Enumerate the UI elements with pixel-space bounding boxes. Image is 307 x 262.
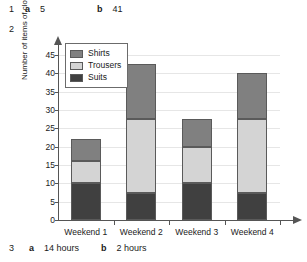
bar-segment-suits: [126, 193, 156, 221]
x-axis-tick-mark: [225, 221, 226, 225]
y-axis-tick-label: 5: [31, 197, 55, 206]
bar-segment-shirts: [126, 64, 156, 119]
y-axis-tick-label: 10: [31, 179, 55, 188]
answer-row-1: 1 a 5 b 41: [9, 4, 299, 14]
y-axis-tick-mark: [55, 220, 58, 221]
y-axis-tick-label: 35: [31, 87, 55, 96]
bar-segment-trousers: [182, 147, 212, 184]
bar-segment-shirts: [182, 119, 212, 147]
answers-page: 1 a 5 b 41 2 Number of items of clothing…: [0, 0, 307, 262]
x-axis-tick-mark: [280, 221, 281, 225]
y-axis-arrow-icon: [54, 36, 62, 45]
bar-segment-shirts: [71, 139, 101, 161]
y-axis-tick-mark: [55, 73, 58, 74]
x-axis-line: [58, 220, 294, 221]
y-axis-tick-mark: [55, 202, 58, 203]
y-axis-tick-label: 20: [31, 142, 55, 151]
y-axis-tick-mark: [55, 55, 58, 56]
x-axis-tick-mark: [169, 221, 170, 225]
part-label-a: a: [29, 243, 34, 253]
bar-segment-shirts: [237, 73, 267, 119]
bar-segment-trousers: [71, 161, 101, 183]
answer-value-3b: 2 hours: [117, 243, 147, 253]
part-label-b: b: [97, 4, 103, 14]
legend-swatch-icon: [70, 62, 83, 70]
bar-3: [182, 55, 212, 220]
y-axis-tick-mark: [55, 165, 58, 166]
y-axis-tick-label: 30: [31, 106, 55, 115]
y-axis-tick-mark: [55, 128, 58, 129]
chart-legend: ShirtsTrousersSuits: [65, 43, 128, 88]
question-number: 3: [9, 243, 25, 253]
bar-segment-suits: [182, 183, 212, 220]
answer-value-1a: 5: [40, 4, 45, 14]
legend-swatch-icon: [70, 50, 83, 58]
x-axis-category-label: Weekend 2: [110, 227, 172, 237]
y-axis-tick-mark: [55, 110, 58, 111]
legend-swatch-icon: [70, 74, 83, 82]
legend-label: Suits: [88, 73, 107, 82]
y-axis-tick-mark: [55, 183, 58, 184]
x-axis-category-label: Weekend 1: [55, 227, 117, 237]
y-axis-tick-label: 40: [31, 69, 55, 78]
part-label-b: b: [101, 243, 107, 253]
y-axis-tick-label: 45: [31, 51, 55, 60]
x-axis-category-label: Weekend 3: [166, 227, 228, 237]
x-axis-category-label: Weekend 4: [221, 227, 283, 237]
x-axis-tick-mark: [114, 221, 115, 225]
legend-item-trousers: Trousers: [70, 60, 121, 71]
bar-segment-suits: [71, 183, 101, 220]
bar-segment-trousers: [126, 119, 156, 192]
bar-4: [237, 55, 267, 220]
y-axis-tick-label: 15: [31, 161, 55, 170]
answer-value-3a: 14 hours: [44, 243, 79, 253]
bar-segment-trousers: [237, 119, 267, 192]
answer-row-3: 3 a 14 hours b 2 hours: [9, 243, 299, 253]
y-axis-line: [58, 44, 59, 220]
legend-label: Trousers: [88, 61, 121, 70]
legend-item-shirts: Shirts: [70, 48, 121, 59]
stacked-bar-chart: Number of items of clothing 051015202530…: [24, 28, 302, 238]
legend-label: Shirts: [88, 49, 110, 58]
y-axis-tick-label: 25: [31, 124, 55, 133]
legend-item-suits: Suits: [70, 72, 121, 83]
y-axis-tick-mark: [55, 147, 58, 148]
bar-segment-suits: [237, 193, 267, 221]
x-axis-arrow-icon: [293, 216, 302, 224]
bar-2: [126, 55, 156, 220]
y-axis-tick-label: 0: [31, 216, 55, 225]
y-axis-tick-labels: 051015202530354045: [24, 55, 55, 220]
answer-value-1b: 41: [113, 4, 123, 14]
y-axis-tick-mark: [55, 92, 58, 93]
